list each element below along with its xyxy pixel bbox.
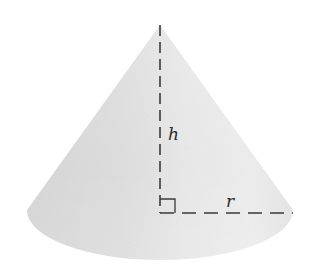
height-label: h bbox=[168, 124, 179, 144]
radius-label: r bbox=[226, 191, 235, 211]
cone-svg: h r bbox=[0, 0, 316, 269]
cone-diagram: h r bbox=[0, 0, 316, 269]
